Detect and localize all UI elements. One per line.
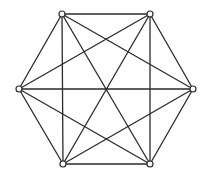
- edge-v3-v5: [63, 89, 193, 164]
- vertex-v2: [147, 11, 153, 17]
- edge-v4-v6: [19, 89, 150, 164]
- edge-v1-v6: [19, 14, 62, 89]
- edge-v2-v6: [19, 14, 150, 89]
- vertex-v5: [60, 161, 66, 167]
- vertex-v3: [190, 86, 196, 92]
- graph-edges: [19, 14, 193, 164]
- edge-v3-v4: [150, 89, 193, 164]
- edge-v2-v3: [150, 14, 193, 89]
- vertex-v6: [16, 86, 22, 92]
- edge-v5-v6: [19, 89, 63, 164]
- complete-graph-diagram: [0, 0, 207, 180]
- vertex-v4: [147, 161, 153, 167]
- vertex-v1: [59, 11, 65, 17]
